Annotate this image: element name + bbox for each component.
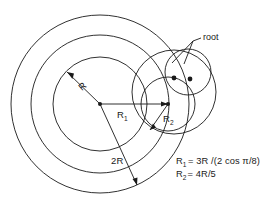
circle-diagram: R R1 R2 2R root R1= 3R /(2 cos π/8) R2= … bbox=[0, 0, 275, 203]
formula-line-1: R1= 3R /(2 cos π/8) bbox=[176, 156, 260, 168]
label-R1-sub: 1 bbox=[124, 115, 128, 122]
figure-container: R R1 R2 2R root R1= 3R /(2 cos π/8) R2= … bbox=[0, 0, 275, 203]
label-2R: 2R bbox=[111, 155, 124, 166]
formula-2-sub: 2 bbox=[183, 174, 187, 181]
formula-2-rest: = 4R/5 bbox=[188, 169, 216, 179]
label-R1-main: R bbox=[117, 109, 124, 120]
root-circle-large bbox=[132, 50, 216, 134]
root-dot-left bbox=[172, 76, 177, 81]
center-dot-r2 bbox=[166, 102, 170, 106]
label-R1: R1 bbox=[117, 109, 128, 122]
label-root: root bbox=[203, 32, 219, 42]
label-R2-sub: 2 bbox=[170, 119, 174, 126]
center-dot-main bbox=[98, 102, 102, 106]
formula-line-2: R2= 4R/5 bbox=[176, 169, 216, 181]
2R-arrowhead-icon bbox=[133, 178, 138, 186]
label-R2-main: R bbox=[163, 113, 170, 124]
root-dot-right bbox=[188, 77, 193, 82]
label-R2: R2 bbox=[163, 113, 174, 126]
formula-1-sub: 1 bbox=[183, 161, 187, 168]
root-leader-line-2 bbox=[184, 41, 193, 64]
formula-1-rest: = 3R /(2 cos π/8) bbox=[188, 156, 260, 166]
